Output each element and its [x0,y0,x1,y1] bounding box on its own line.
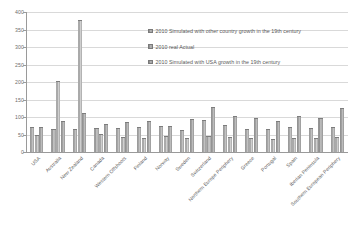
bar [233,116,237,152]
y-tick-mark-200 [23,82,26,83]
bar [228,137,232,152]
x-tick-label: Greece [240,155,256,171]
bar [309,128,313,152]
legend-label: 2010 Simulated with USA growth in the 19… [156,59,281,65]
x-tick-label: Australia [44,155,62,173]
bar [147,121,151,152]
x-tick-label: USA [29,155,41,167]
bar [137,127,141,153]
bar [245,129,249,152]
bar-group [327,12,348,152]
y-tick-label-150: 150 [2,97,24,103]
legend-swatch-icon [148,29,153,34]
bar-group [90,12,111,152]
bar-group [305,12,326,152]
bar [271,139,275,152]
bar [30,127,34,152]
bar-group [26,12,47,152]
bar [223,125,227,152]
x-label-cell: Northern Europe Periphery [219,153,240,225]
y-tick-mark-100 [23,117,26,118]
y-tick-mark-150 [23,100,26,101]
y-tick-mark-400 [23,12,26,13]
legend-swatch-icon [148,44,153,49]
y-tick-label-200: 200 [2,79,24,85]
x-axis-tick-labels: USAAustraliaNew ZealandCanadaWestern Off… [26,153,348,225]
legend-item: 2010 Simulated with other country growth… [148,28,301,34]
bar-group [69,12,90,152]
bar [51,129,55,152]
bar [164,136,168,152]
bar [73,129,77,152]
x-label-cell: USA [26,153,47,225]
x-tick-label: Spain [285,155,298,168]
legend-swatch-icon [148,60,153,65]
bar [288,127,292,152]
bar-chart: 050100150200250300350400 USAAustraliaNew… [0,0,353,225]
y-tick-label-250: 250 [2,62,24,68]
bar [104,124,108,152]
bar [335,137,339,152]
legend-item: 2010 real Actual [148,44,301,50]
bar [78,20,82,152]
x-label-cell: Western Offshoots [112,153,133,225]
bar [142,138,146,152]
bar [159,126,163,152]
bar [56,81,60,152]
bar [292,138,296,152]
bar [185,138,189,152]
bar-group [112,12,133,152]
bar [180,130,184,152]
bar [125,122,129,152]
y-tick-label-400: 400 [2,9,24,15]
y-tick-mark-250 [23,65,26,66]
y-tick-label-300: 300 [2,44,24,50]
x-label-cell: Canada [90,153,111,225]
bar-group [47,12,68,152]
bar [254,118,258,152]
bar [206,136,210,152]
x-label-cell: Portugal [262,153,283,225]
bar [35,135,39,152]
x-tick-label: Finland [132,155,148,171]
bar [340,108,344,152]
y-tick-mark-350 [23,30,26,31]
bar [121,137,125,152]
x-label-cell: Australia [47,153,68,225]
x-tick-label: Portugal [259,155,277,173]
x-tick-label: Sweden [174,155,191,172]
bar [276,121,280,152]
bar [249,138,253,152]
y-axis-line [26,12,27,153]
y-tick-label-50: 50 [2,132,24,138]
x-label-cell: Norway [155,153,176,225]
x-label-cell: Southern European Periphery [327,153,348,225]
bar [202,120,206,152]
bar [211,107,215,152]
x-label-cell: Finland [133,153,154,225]
chart-legend: 2010 Simulated with other country growth… [148,28,301,65]
y-tick-mark-50 [23,135,26,136]
legend-item: 2010 Simulated with USA growth in the 19… [148,59,301,65]
y-tick-label-0: 0 [2,149,24,155]
bar [331,127,335,152]
y-tick-label-100: 100 [2,114,24,120]
bar [116,128,120,152]
bar [61,121,65,152]
bar [266,129,270,152]
x-label-cell: New Zealand [69,153,90,225]
bar [297,116,301,152]
bar [168,126,172,152]
bar [94,128,98,152]
bar [314,138,318,152]
bar [190,119,194,152]
legend-label: 2010 Simulated with other country growth… [156,28,302,34]
bar [318,118,322,152]
y-tick-mark-300 [23,47,26,48]
legend-label: 2010 real Actual [156,44,195,50]
x-tick-label: Canada [89,155,106,172]
x-label-cell: Greece [241,153,262,225]
bar [99,134,103,152]
x-tick-label: Norway [153,155,169,171]
bar [82,113,86,152]
